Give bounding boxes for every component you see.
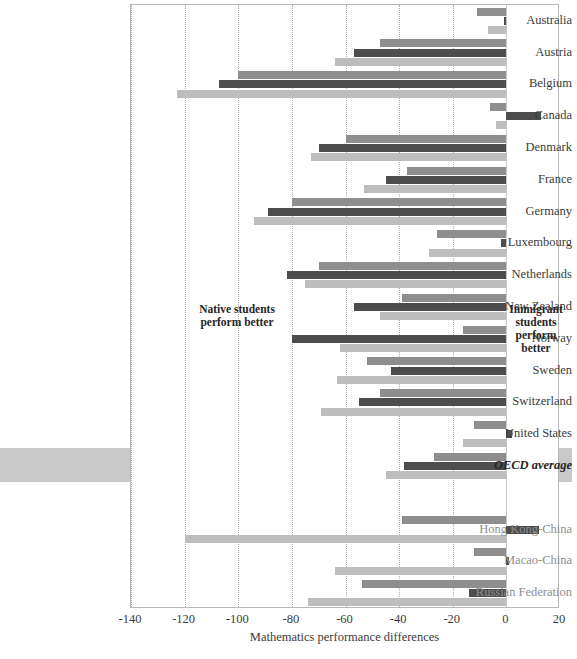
bar-russian-federation-series-3 xyxy=(308,598,506,606)
bar-sweden-series-3 xyxy=(337,376,506,384)
x-tick--40: -40 xyxy=(368,612,428,627)
annotation-immigrant-line-1: Immigrant xyxy=(505,303,567,316)
bar-canada-series-3 xyxy=(496,121,507,129)
annotation-native-students: Native students perform better xyxy=(178,303,296,329)
x-tick--80: -80 xyxy=(261,612,321,627)
gridline--140 xyxy=(131,5,133,607)
y-label-russian-federation: Russian Federation xyxy=(446,585,572,599)
y-label-canada: Canada xyxy=(446,108,572,122)
y-label-australia: Australia xyxy=(446,13,572,27)
x-tick-20: 20 xyxy=(529,612,577,627)
annotation-native-line-1: Native students xyxy=(178,303,296,316)
annotation-immigrant-line-4: better xyxy=(505,342,567,355)
x-tick--100: -100 xyxy=(207,612,267,627)
x-tick--120: -120 xyxy=(154,612,214,627)
y-label-switzerland: Switzerland xyxy=(446,394,572,408)
annotation-native-line-2: perform better xyxy=(178,316,296,329)
y-label-belgium: Belgium xyxy=(446,76,572,90)
y-label-united-states: United States xyxy=(446,426,572,440)
y-label-macao-china: Macao-China xyxy=(446,553,572,567)
bar-luxembourg-series-3 xyxy=(429,249,507,257)
bar-australia-series-3 xyxy=(488,26,507,34)
y-label-germany: Germany xyxy=(446,204,572,218)
y-label-france: France xyxy=(446,172,572,186)
bar-united-states-series-3 xyxy=(463,439,506,447)
y-label-denmark: Denmark xyxy=(446,140,572,154)
bar-new-zealand-series-3 xyxy=(380,312,506,320)
y-label-austria: Austria xyxy=(446,45,572,59)
y-label-sweden: Sweden xyxy=(446,363,572,377)
bar-macao-china-series-3 xyxy=(335,567,507,575)
annotation-immigrant-line-3: perform xyxy=(505,329,567,342)
bar-norway-series-3 xyxy=(340,344,506,352)
bar-switzerland-series-3 xyxy=(321,408,506,416)
x-tick--140: -140 xyxy=(100,612,160,627)
y-label-netherlands: Netherlands xyxy=(446,267,572,281)
bar-france-series-3 xyxy=(364,185,506,193)
y-label-oecd-average: OECD average xyxy=(446,458,572,472)
y-label-luxembourg: Luxembourg xyxy=(446,235,572,249)
bar-oecd-average-series-3 xyxy=(386,471,507,479)
annotation-immigrant-line-2: students xyxy=(505,316,567,329)
bar-netherlands-series-3 xyxy=(305,280,506,288)
x-tick--20: -20 xyxy=(422,612,482,627)
x-tick-0: 0 xyxy=(475,612,535,627)
bar-hong-kong-china-series-3 xyxy=(185,535,507,543)
bar-belgium-series-3 xyxy=(177,90,507,98)
annotation-immigrant-students: Immigrant students perform better xyxy=(505,303,567,355)
bar-germany-series-3 xyxy=(254,217,506,225)
bar-denmark-series-3 xyxy=(311,153,507,161)
x-tick--60: -60 xyxy=(315,612,375,627)
y-label-hong-kong-china: Hong Kong-China xyxy=(446,522,572,536)
x-axis-title: Mathematics performance differences xyxy=(130,630,559,645)
bar-austria-series-3 xyxy=(335,58,507,66)
